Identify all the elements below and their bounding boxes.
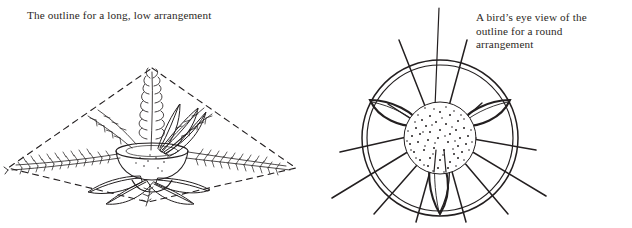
foliage-spray-upper-left: [88, 110, 136, 148]
figure-round-arrangement: A bird’s eye view of the outline for a r…: [330, 0, 632, 228]
long-low-arrangement-illustration: [0, 0, 320, 228]
round-arrangement-illustration: [330, 0, 632, 228]
broad-leaf-cluster-upper: [158, 104, 206, 156]
bowl-stipple: [135, 154, 168, 171]
trailing-sprig-below-bowl: [142, 186, 153, 206]
foliage-spray-left: [4, 149, 120, 174]
figure-long-low-arrangement: The outline for a long, low arrangement: [0, 0, 320, 228]
central-foliage-spike: [139, 68, 164, 150]
